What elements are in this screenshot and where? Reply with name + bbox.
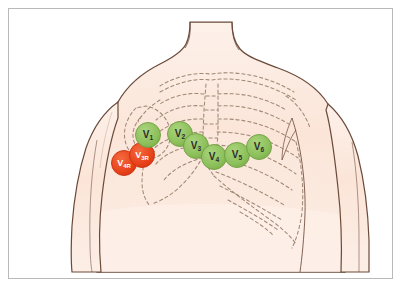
electrode-v5-subscript: 5 <box>239 154 243 161</box>
ecg-electrode-placement-diagram: Chest electrode placement on anterior th… <box>0 0 403 289</box>
figure-root: Chest electrode placement on anterior th… <box>0 0 403 289</box>
electrode-v3r-subscript: 3R <box>141 154 149 160</box>
electrode-v2-subscript: 2 <box>182 133 186 140</box>
electrode-v5[interactable]: V5 <box>225 143 250 168</box>
electrode-v6-subscript: 6 <box>261 146 265 153</box>
electrode-v6[interactable]: V6 <box>247 135 272 160</box>
electrode-v1-subscript: 1 <box>150 134 154 141</box>
electrode-v3-subscript: 3 <box>198 145 202 152</box>
electrode-v4-subscript: 4 <box>216 156 220 163</box>
electrode-v1[interactable]: V1 <box>136 123 161 148</box>
abdomen-shading <box>97 204 345 272</box>
electrode-v4[interactable]: V4 <box>202 145 227 170</box>
electrode-v4r-subscript: 4R <box>123 162 131 168</box>
